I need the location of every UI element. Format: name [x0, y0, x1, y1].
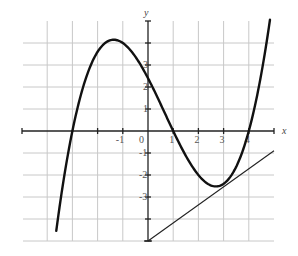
y-tick-label: -2 [139, 169, 147, 180]
x-tick-label: 2 [194, 134, 199, 145]
x-tick-label: -1 [116, 134, 124, 145]
x-tick-label: 0 [139, 134, 144, 145]
cubic-curve [56, 20, 270, 231]
y-tick-label: 1 [143, 103, 148, 114]
x-tick-label: 1 [169, 134, 174, 145]
y-axis-label: y [143, 7, 149, 18]
y-tick-label: -3 [139, 191, 147, 202]
chart: -101234321-1-2-3 x y [0, 0, 298, 256]
y-tick-label: -1 [139, 147, 147, 158]
x-tick-label: 3 [220, 134, 225, 145]
tangent-line [148, 151, 274, 241]
y-tick-label: 2 [143, 81, 148, 92]
x-axis-label: x [281, 125, 287, 136]
